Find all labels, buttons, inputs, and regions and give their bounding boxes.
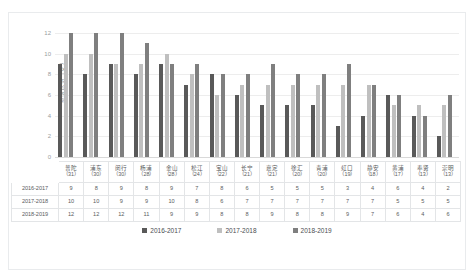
table-cell: 6 — [435, 209, 460, 222]
table-cell: 12 — [109, 209, 134, 222]
bar — [285, 105, 289, 157]
row-header-cell: 2018-2019 — [12, 209, 59, 222]
legend-item[interactable]: 2017-2018 — [217, 227, 256, 234]
table-cell: 2 — [435, 183, 460, 196]
table-cell: 8 — [134, 183, 159, 196]
legend-label: 2017-2018 — [225, 227, 256, 234]
bar-group — [156, 33, 181, 157]
bar — [412, 116, 416, 157]
plot-area: 参赛队伍（支） 024681012 — [9, 13, 465, 165]
table-cell: 8 — [234, 209, 259, 222]
legend-swatch-icon — [217, 228, 222, 233]
table-cell: 8 — [209, 183, 234, 196]
table-cell: 7 — [285, 196, 310, 209]
bar — [336, 126, 340, 157]
y-axis-tick-8: 8 — [35, 71, 51, 77]
screenshot-root: 参赛队伍（支） 024681012 普陀（31）浦东（30）闵行（30）杨浦（2… — [0, 0, 472, 278]
bar — [170, 64, 174, 157]
table-cell: 9 — [134, 196, 159, 209]
table-cell: 9 — [109, 183, 134, 196]
bar — [195, 64, 199, 157]
column-header-cell: 闵行（30） — [109, 162, 134, 183]
table-cell: 10 — [59, 196, 84, 209]
bar — [423, 116, 427, 157]
bar — [246, 74, 250, 157]
column-header-cell: 崇明（13） — [435, 162, 460, 183]
table-cell: 6 — [234, 183, 259, 196]
y-axis-tick-2: 2 — [35, 133, 51, 139]
bar — [347, 64, 351, 157]
y-axis-tick-12: 12 — [35, 30, 51, 36]
table-row: 2018-201912121211998898897646 — [12, 209, 461, 222]
legend-label: 2016-2017 — [150, 227, 181, 234]
table-cell: 7 — [335, 196, 360, 209]
bar — [386, 95, 390, 157]
bar — [266, 85, 270, 157]
bar — [120, 33, 124, 157]
bar — [240, 85, 244, 157]
bar-group — [333, 33, 358, 157]
bar-group — [358, 33, 383, 157]
bar — [114, 64, 118, 157]
legend-item[interactable]: 2018-2019 — [293, 227, 332, 234]
column-header-cell: 徐汇（20） — [285, 162, 310, 183]
column-header-cell: 宝山（22） — [209, 162, 234, 183]
bar-group — [131, 33, 156, 157]
column-header-cell: 虹口（19） — [335, 162, 360, 183]
table-cell: 9 — [59, 183, 84, 196]
bar-group — [106, 33, 131, 157]
bar — [437, 136, 441, 157]
bar — [448, 95, 452, 157]
table-cell: 9 — [260, 209, 285, 222]
bar-group — [282, 33, 307, 157]
bar — [291, 85, 295, 157]
table-cell: 10 — [159, 196, 184, 209]
table-cell: 5 — [260, 183, 285, 196]
bar — [94, 33, 98, 157]
bar — [341, 85, 345, 157]
bar — [311, 105, 315, 157]
bar-group — [383, 33, 408, 157]
bar-group — [232, 33, 257, 157]
bar — [442, 105, 446, 157]
legend-label: 2018-2019 — [301, 227, 332, 234]
table-cell: 5 — [410, 196, 435, 209]
column-header-cell: 嘉定（21） — [260, 162, 285, 183]
y-axis-tick-10: 10 — [35, 51, 51, 57]
bar — [184, 85, 188, 157]
row-header-cell: 2017-2018 — [12, 196, 59, 209]
table-cell: 9 — [184, 209, 209, 222]
column-header-cell: 长宁（21） — [234, 162, 259, 183]
column-header-cell: 青浦（20） — [310, 162, 335, 183]
column-header-cell: 杨浦（28） — [134, 162, 159, 183]
bar — [109, 64, 113, 157]
bar — [58, 64, 62, 157]
bar-group — [181, 33, 206, 157]
table-cell: 7 — [360, 196, 385, 209]
table-corner-cell — [12, 162, 59, 183]
table-cell: 11 — [134, 209, 159, 222]
legend-item[interactable]: 2016-2017 — [142, 227, 181, 234]
table-cell: 4 — [360, 183, 385, 196]
chart-object-frame: 参赛队伍（支） 024681012 普陀（31）浦东（30）闵行（30）杨浦（2… — [8, 12, 466, 270]
bar — [361, 116, 365, 157]
table-row: 2017-20181010991086777777555 — [12, 196, 461, 209]
table-header-row: 普陀（31）浦东（30）闵行（30）杨浦（28）金山（28）松江（24）宝山（2… — [12, 162, 461, 183]
y-axis-tick-6: 6 — [35, 92, 51, 98]
table-cell: 7 — [360, 209, 385, 222]
bar — [69, 33, 73, 157]
data-table-wrap: 普陀（31）浦东（30）闵行（30）杨浦（28）金山（28）松江（24）宝山（2… — [9, 161, 465, 222]
table-cell: 7 — [184, 183, 209, 196]
bar-group — [55, 33, 80, 157]
bar — [83, 74, 87, 157]
bar — [190, 74, 194, 157]
column-header-cell: 普陀（31） — [59, 162, 84, 183]
data-table: 普陀（31）浦东（30）闵行（30）杨浦（28）金山（28）松江（24）宝山（2… — [11, 161, 461, 222]
table-cell: 12 — [59, 209, 84, 222]
bar — [417, 105, 421, 157]
table-cell: 9 — [159, 209, 184, 222]
bar-group-container — [55, 33, 459, 157]
table-cell: 8 — [285, 209, 310, 222]
bar-group — [434, 33, 459, 157]
table-cell: 10 — [84, 196, 109, 209]
